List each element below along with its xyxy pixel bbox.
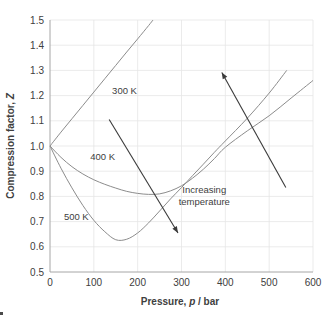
increasing-temperature-label: Increasingtemperature <box>179 184 230 207</box>
compression-factor-chart: 300 K400 K500 K Increasingtemperature 0.… <box>0 0 331 315</box>
y-tick-label: 0.9 <box>30 166 44 177</box>
y-tick-label: 0.8 <box>30 191 44 202</box>
y-axis-title: Compression factor, Z <box>5 92 16 198</box>
chart-svg: 300 K400 K500 K Increasingtemperature 0.… <box>0 0 331 315</box>
y-tick-label: 1.4 <box>30 40 44 51</box>
y-tick-label: 0.7 <box>30 216 44 227</box>
x-tick-label: 0 <box>47 277 53 288</box>
y-tick-label: 1.2 <box>30 90 44 101</box>
x-tick-label: 500 <box>261 277 278 288</box>
y-tick-label: 1.1 <box>30 115 44 126</box>
series-label-400-k: 400 K <box>90 151 115 162</box>
x-tick-label: 200 <box>129 277 146 288</box>
y-tick-label: 1.3 <box>30 65 44 76</box>
x-tick-label: 400 <box>217 277 234 288</box>
x-tick-label: 300 <box>173 277 190 288</box>
y-tick-label: 1.0 <box>30 141 44 152</box>
series-label-500-k: 500 K <box>64 211 89 222</box>
x-tick-label: 100 <box>85 277 102 288</box>
series-label-300-k: 300 K <box>112 85 137 96</box>
x-tick-label: 600 <box>305 277 322 288</box>
y-tick-label: 0.6 <box>30 241 44 252</box>
y-tick-label: 0.5 <box>30 267 44 278</box>
x-axis-title: Pressure, p / bar <box>141 296 219 307</box>
y-tick-label: 1.5 <box>30 15 44 26</box>
